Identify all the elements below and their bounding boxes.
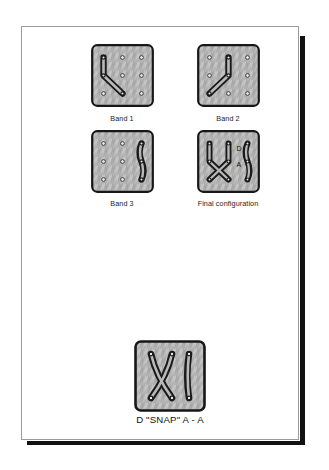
figure-final-configuration: D A Final configuration — [195, 130, 261, 209]
figure-grid: Band 1 — [89, 44, 261, 208]
peg-label-a: A — [236, 160, 241, 167]
figure-band-1: Band 1 — [89, 44, 155, 123]
caption-band-3: Band 3 — [110, 199, 133, 208]
caption-final-configuration: Final configuration — [198, 199, 259, 208]
pegboard-snap-result — [134, 340, 206, 412]
page-sheet: Band 1 — [21, 26, 299, 440]
page-shadow-right — [300, 36, 305, 445]
caption-band-2: Band 2 — [216, 114, 239, 123]
pegboard-band-1 — [91, 44, 154, 111]
pegboard-band-2 — [197, 44, 260, 111]
figure-row-top: Band 1 — [89, 44, 261, 123]
pegboard-band-3 — [91, 130, 154, 197]
page-shadow-bottom — [27, 441, 305, 445]
pegboard-final-configuration: D A — [197, 130, 260, 197]
figure-band-2: Band 2 — [195, 44, 261, 123]
peg-label-d: D — [236, 144, 241, 151]
figure-band-3: Band 3 — [89, 130, 155, 209]
figure-snap-result: D "SNAP" A - A — [130, 340, 210, 425]
caption-snap-result: D "SNAP" A - A — [136, 414, 204, 425]
caption-band-1: Band 1 — [110, 114, 133, 123]
figure-row-bottom: Band 3 — [89, 130, 261, 209]
